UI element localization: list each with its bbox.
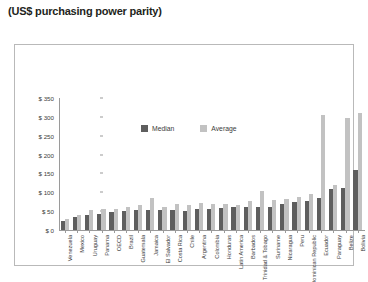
bar-group: Latin America	[230, 98, 242, 230]
bar-group: Bolivia	[352, 98, 364, 230]
legend-swatch-average-icon	[200, 125, 207, 132]
bar-average	[358, 113, 362, 230]
bar-average	[321, 115, 325, 230]
y-axis-tick-label: $ 300	[39, 113, 59, 120]
x-axis-tick-label: Bolivia	[360, 219, 366, 235]
x-axis-tick-mark	[89, 230, 90, 233]
bar-group: OECD	[108, 98, 120, 230]
x-axis-tick-mark	[211, 230, 212, 233]
bar-average	[345, 118, 349, 230]
bar-group: Costa Rica	[169, 98, 181, 230]
bar-group: Nicaragua	[279, 98, 291, 230]
bar-group: El Salvador	[157, 98, 169, 230]
bar-group: Honduras	[218, 98, 230, 230]
bar-series-container: VenezuelaMexicoUruguayPanamaOECDBrazilGu…	[59, 98, 364, 230]
x-axis-tick-mark	[333, 230, 334, 233]
x-axis-tick-mark	[114, 230, 115, 233]
bar-group: Argentina	[193, 98, 205, 230]
legend-label-median: Median	[152, 125, 174, 132]
bar-group: Colombia	[205, 98, 217, 230]
x-axis-tick-mark	[358, 230, 359, 233]
x-axis-tick-mark	[297, 230, 298, 233]
bar-group: Barbados	[242, 98, 254, 230]
bar-group: Venezuela	[59, 98, 71, 230]
bar-group: Brazil	[120, 98, 132, 230]
y-axis-tick-label: $ 350	[39, 95, 59, 102]
bar-group: Belize	[340, 98, 352, 230]
x-axis-tick-mark	[272, 230, 273, 233]
y-axis-tick-label: $ 0	[45, 227, 59, 234]
bar-group: Mexico	[71, 98, 83, 230]
legend-item-median: Median	[141, 125, 174, 132]
x-axis-tick-mark	[187, 230, 188, 233]
chart-legend: Median Average	[141, 125, 237, 132]
chart-figure: (US$ purchasing power parity) $ 0$ 50$ 1…	[0, 0, 368, 282]
x-axis-tick-mark	[309, 230, 310, 233]
chart-panel: $ 0$ 50$ 100$ 150$ 200$ 250$ 300$ 350 Ve…	[14, 44, 354, 266]
bar-group: Panama	[96, 98, 108, 230]
bar-group: Ecuador	[315, 98, 327, 230]
y-axis-tick-label: $ 100	[39, 189, 59, 196]
x-axis-tick-mark	[224, 230, 225, 233]
y-axis-tick-label: $ 150	[39, 170, 59, 177]
x-axis-tick-mark	[65, 230, 66, 233]
bar-group: Trinidad & Tobago	[254, 98, 266, 230]
bar-group: Dominican Republic	[303, 98, 315, 230]
x-axis-tick-mark	[346, 230, 347, 233]
x-axis-tick-mark	[150, 230, 151, 233]
figure-caption: (US$ purchasing power parity)	[8, 5, 162, 17]
legend-label-average: Average	[211, 125, 236, 132]
plot-area: $ 0$ 50$ 100$ 150$ 200$ 250$ 300$ 350 Ve…	[59, 98, 364, 230]
y-axis-tick-label: $ 50	[42, 208, 59, 215]
x-axis-tick-mark	[102, 230, 103, 233]
x-axis-tick-mark	[285, 230, 286, 233]
x-axis-tick-mark	[236, 230, 237, 233]
bar-group: Chile	[181, 98, 193, 230]
x-axis-tick-mark	[248, 230, 249, 233]
x-axis-tick-mark	[126, 230, 127, 233]
legend-item-average: Average	[200, 125, 236, 132]
y-axis-tick-label: $ 250	[39, 132, 59, 139]
bar-group: Paraguay	[327, 98, 339, 230]
bar-group: Jamaica	[144, 98, 156, 230]
x-axis-tick-mark	[175, 230, 176, 233]
legend-swatch-median-icon	[141, 125, 148, 132]
x-axis-tick-mark	[163, 230, 164, 233]
bar-group: Uruguay	[83, 98, 95, 230]
y-axis-tick-label: $ 200	[39, 151, 59, 158]
bar-group: Suriname	[266, 98, 278, 230]
bar-group: Peru	[291, 98, 303, 230]
bar-group: Guatemala	[132, 98, 144, 230]
